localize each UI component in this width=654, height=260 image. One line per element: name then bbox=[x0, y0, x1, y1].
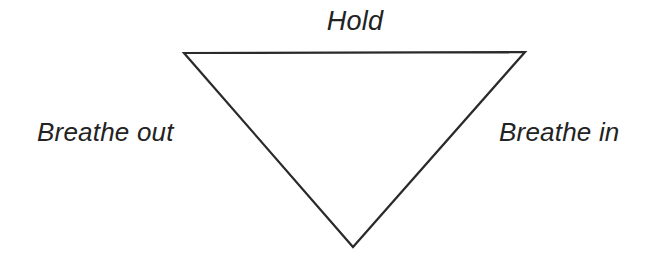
breathing-triangle-figure: Hold Breathe out Breathe in bbox=[0, 0, 654, 260]
label-hold: Hold bbox=[0, 8, 654, 35]
label-breathe-out: Breathe out bbox=[37, 119, 174, 145]
inverted-triangle-outline bbox=[184, 52, 525, 247]
label-breathe-in: Breathe in bbox=[499, 119, 620, 145]
